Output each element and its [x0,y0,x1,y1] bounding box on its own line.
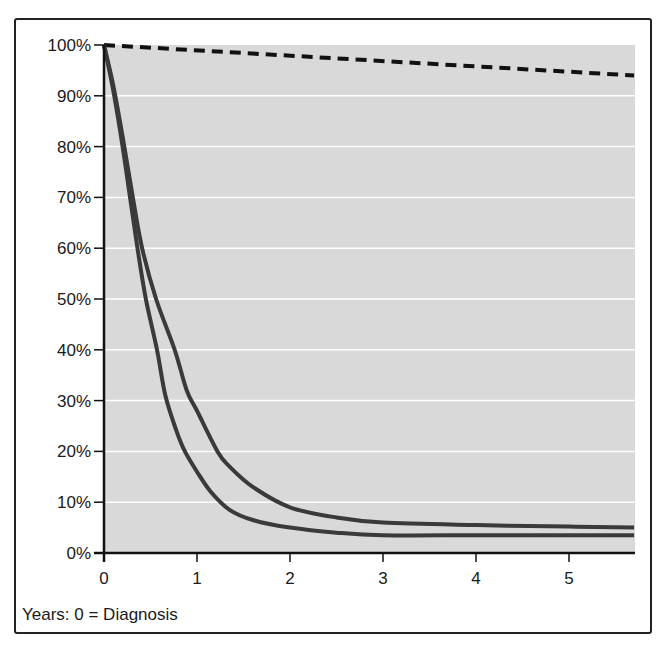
x-tick-label: 5 [564,569,573,588]
y-tick-label: 100% [48,36,91,55]
y-tick-label: 60% [57,239,91,258]
x-axis-ticks: 012345 [99,553,573,588]
survival-chart: 0%10%20%30%40%50%60%70%80%90%100% 012345 [0,0,667,649]
y-tick-label: 10% [57,493,91,512]
y-tick-label: 40% [57,341,91,360]
x-axis-label: Years: 0 = Diagnosis [22,605,178,625]
x-tick-label: 0 [99,569,108,588]
y-axis-ticks: 0%10%20%30%40%50%60%70%80%90%100% [48,36,104,563]
x-tick-label: 2 [285,569,294,588]
y-tick-label: 80% [57,138,91,157]
x-tick-label: 4 [471,569,480,588]
y-tick-label: 90% [57,87,91,106]
x-tick-label: 3 [378,569,387,588]
y-tick-label: 50% [57,290,91,309]
y-tick-label: 30% [57,392,91,411]
y-tick-label: 0% [66,544,91,563]
y-tick-label: 70% [57,188,91,207]
x-tick-label: 1 [192,569,201,588]
y-tick-label: 20% [57,442,91,461]
